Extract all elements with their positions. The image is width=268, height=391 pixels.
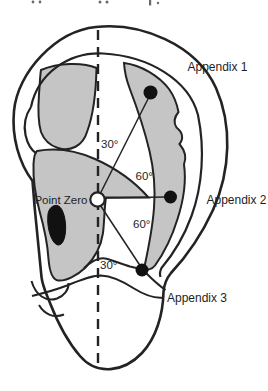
angle-label-upper-outer: 60° — [136, 170, 153, 182]
angle-label-lower-inner: 30° — [100, 259, 117, 271]
appendix3-point-dot — [136, 264, 149, 277]
appendix1-label: Appendix 1 — [188, 60, 248, 74]
point-zero-label: Point Zero — [34, 194, 87, 206]
cropped-text-fragment — [32, 0, 160, 6]
angle-label-upper-inner: 30° — [101, 138, 118, 150]
ear-diagram-canvas: Appendix 1 Appendix 2 Appendix 3 Point Z… — [0, 0, 268, 391]
ray-to-appendix2 — [104, 197, 167, 198]
appendix3-label: Appendix 3 — [167, 291, 227, 305]
ear-diagram: Appendix 1 Appendix 2 Appendix 3 Point Z… — [0, 0, 268, 391]
appendix2-label: Appendix 2 — [207, 193, 267, 207]
angle-label-lower-outer: 60° — [133, 218, 150, 230]
appendix2-point-dot — [164, 191, 177, 204]
appendix1-point-dot — [144, 86, 158, 100]
point-zero-circle — [90, 192, 104, 206]
